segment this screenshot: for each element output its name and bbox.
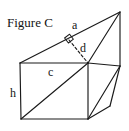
figure-title: Figure C (7, 16, 53, 29)
edge-right-middle-to-lower-right (110, 66, 120, 106)
edge-front-top-right-to-right-middle (88, 63, 120, 66)
edge-front-left (20, 63, 21, 119)
label-h: h (10, 87, 16, 99)
edge-front-bottom-right-to-right-middle (88, 66, 120, 119)
edge-front-diagonal (21, 63, 88, 119)
label-c: c (48, 66, 53, 78)
figure-c-diagram: Figure C a d c h (0, 0, 129, 131)
label-a: a (72, 19, 77, 31)
label-d: d (80, 42, 86, 54)
